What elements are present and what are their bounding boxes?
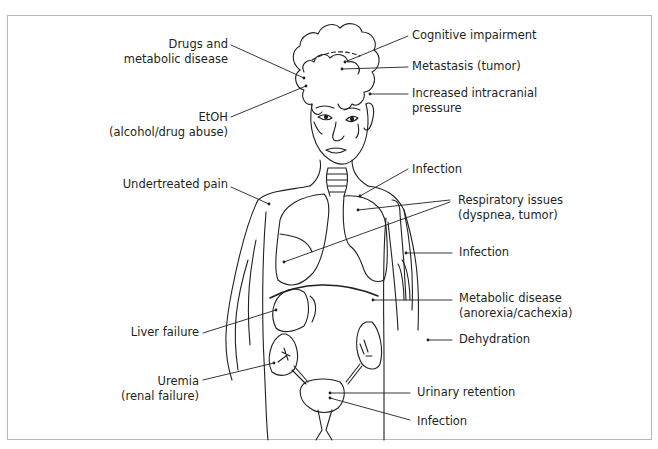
label-line: Increased intracranial — [412, 86, 537, 101]
label-line: Urinary retention — [417, 385, 515, 400]
face-outline — [311, 104, 368, 164]
leader-etoh — [231, 86, 306, 117]
label-line: pressure — [412, 101, 537, 116]
label-line: Respiratory issues — [458, 193, 563, 208]
label-line: (anorexia/cachexia) — [459, 306, 573, 321]
label-drugs: Drugs and metabolic disease — [124, 37, 228, 67]
label-metabolic-disease: Metabolic disease (anorexia/cachexia) — [459, 291, 573, 321]
mouth — [326, 148, 346, 153]
label-line: (renal failure) — [121, 389, 199, 404]
arm-right-inner — [388, 222, 398, 330]
body-illustration — [0, 0, 658, 449]
kidney-left-pelvis — [278, 348, 290, 362]
leader-pain — [231, 187, 269, 204]
label-urinary-retention: Urinary retention — [417, 385, 515, 400]
nose — [333, 122, 344, 141]
label-line: metabolic disease — [124, 52, 228, 67]
label-line: Dehydration — [459, 332, 530, 347]
diaphragm — [270, 285, 378, 298]
body-side-right — [384, 218, 387, 440]
label-intracranial-pressure: Increased intracranial pressure — [412, 86, 537, 116]
brow-right — [344, 108, 360, 110]
hair-outline — [293, 24, 379, 110]
leader-drugs — [231, 45, 304, 78]
urethra — [316, 410, 332, 440]
hair-left — [296, 70, 322, 114]
cheek-line-r — [356, 124, 359, 138]
abdomen — [269, 285, 381, 440]
lungs — [276, 194, 387, 285]
hair-inner — [303, 55, 359, 74]
label-etoh: EtOH (alcohol/drug abuse) — [109, 110, 228, 140]
label-line: Infection — [459, 245, 509, 260]
kidney-right-pelvis — [360, 340, 372, 356]
label-line: Drugs and — [124, 37, 228, 52]
label-line: Metastasis (tumor) — [412, 59, 521, 74]
pupil-right — [350, 117, 353, 120]
cheek-line — [314, 122, 322, 134]
ear — [364, 103, 374, 130]
leader-uremia — [203, 363, 274, 380]
lung-left — [276, 194, 329, 285]
leader-liver — [203, 310, 276, 333]
label-uremia: Uremia (renal failure) — [121, 374, 199, 404]
pupil-left — [324, 115, 327, 118]
label-undertreated-pain: Undertreated pain — [123, 177, 228, 192]
body-side-left — [263, 212, 268, 440]
label-line: Uremia — [121, 374, 199, 389]
stomach — [310, 296, 316, 322]
leader-metastasis — [342, 67, 408, 69]
label-line: Liver failure — [131, 325, 199, 340]
label-line: Infection — [417, 414, 467, 429]
label-infection-arm: Infection — [459, 245, 509, 260]
label-cognitive-impairment: Cognitive impairment — [412, 28, 537, 43]
label-dehydration: Dehydration — [459, 332, 530, 347]
leader-infection-chest — [360, 169, 408, 196]
label-infection-chest: Infection — [412, 162, 462, 177]
label-liver-failure: Liver failure — [131, 325, 199, 340]
trachea — [326, 168, 347, 196]
leader-infection-bladder — [330, 398, 410, 420]
liver — [273, 289, 309, 332]
arm-left-inner — [248, 240, 256, 345]
label-line: Infection — [412, 162, 462, 177]
label-line: Cognitive impairment — [412, 28, 537, 43]
label-line: EtOH — [109, 110, 228, 125]
leader-cognitive — [345, 36, 408, 62]
vessel-2 — [398, 264, 404, 300]
anchor-dots — [268, 61, 430, 400]
bladder — [300, 379, 344, 413]
label-metastasis: Metastasis (tumor) — [412, 59, 521, 74]
brow-left — [316, 106, 334, 108]
ureter-right — [346, 364, 362, 384]
kidney-left — [269, 334, 297, 375]
label-line: Metabolic disease — [459, 291, 573, 306]
label-line: Undertreated pain — [123, 177, 228, 192]
label-line: (dyspnea, tumor) — [458, 208, 563, 223]
label-infection-bladder: Infection — [417, 414, 467, 429]
label-respiratory-issues: Respiratory issues (dyspnea, tumor) — [458, 193, 563, 223]
arm-left-outer — [235, 260, 248, 370]
label-line: (alcohol/drug abuse) — [109, 125, 228, 140]
neck — [310, 160, 368, 196]
head — [293, 24, 379, 165]
lung-left-lobe — [280, 234, 312, 252]
